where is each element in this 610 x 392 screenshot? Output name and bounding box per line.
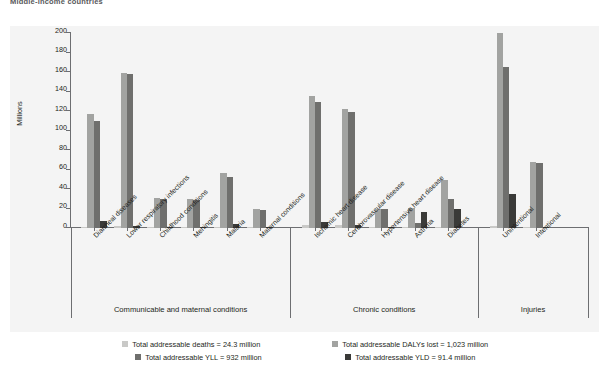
legend-item-dalys[interactable]: Total addressable DALYs lost = 1,023 mil… [332, 340, 488, 349]
bar-group [490, 32, 516, 228]
bar-group [302, 32, 328, 228]
bar [315, 102, 321, 228]
group-label: Communicable and maternal conditions [71, 305, 290, 314]
legend-swatch-icon [122, 341, 129, 348]
bar-group [523, 32, 549, 228]
legend-label: Total addressable DALYs lost = 1,023 mil… [342, 340, 488, 349]
legend-swatch-icon [345, 354, 352, 361]
legend-row: Total addressable deaths = 24.3 millionT… [0, 338, 610, 350]
group-label: Chronic conditions [290, 305, 478, 314]
legend-row: Total addressable YLL = 932 millionTotal… [0, 351, 610, 363]
bar-group [435, 32, 461, 228]
bar [94, 121, 100, 228]
page-title: Middle-income countries [10, 0, 103, 6]
legend-swatch-icon [332, 341, 339, 348]
chart-plot-panel: Millions 200180160140120100806040200 Dia… [10, 26, 599, 332]
legend-swatch-icon [135, 354, 142, 361]
bar-group [81, 32, 107, 228]
legend-label: Total addressable YLL = 932 million [145, 353, 261, 362]
bar [348, 112, 354, 228]
legend-item-yld[interactable]: Total addressable YLD = 91.4 million [345, 353, 476, 362]
bar-group [214, 32, 240, 228]
bar-group [247, 32, 273, 228]
legend-item-yll[interactable]: Total addressable YLL = 932 million [135, 353, 331, 362]
legend-label: Total addressable deaths = 24.3 million [132, 340, 260, 349]
group-label: Injuries [478, 305, 588, 314]
bar [227, 177, 233, 228]
bar [536, 163, 542, 228]
legend-item-deaths[interactable]: Total addressable deaths = 24.3 million [122, 340, 318, 349]
group-separator [588, 228, 589, 318]
legend-label: Total addressable YLD = 91.4 million [355, 353, 475, 362]
